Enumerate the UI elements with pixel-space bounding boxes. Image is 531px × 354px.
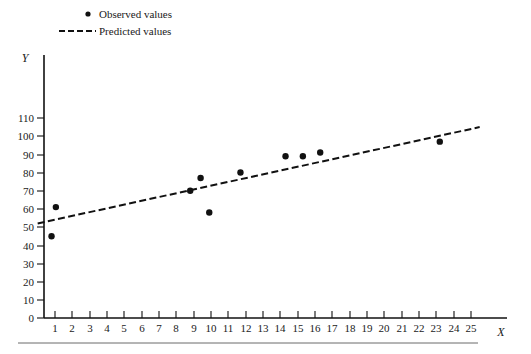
data-point xyxy=(197,175,203,181)
x-tick-label: 15 xyxy=(293,322,305,334)
observed-values-points xyxy=(48,138,443,239)
y-axis-ticks: 0 10 20 30 40 50 60 70 80 90 100 110 xyxy=(18,112,45,324)
data-point xyxy=(206,209,212,215)
data-point xyxy=(282,153,288,159)
x-tick-label: 10 xyxy=(206,322,218,334)
y-tick-label: 80 xyxy=(23,167,35,179)
x-tick-label: 19 xyxy=(362,322,374,334)
data-point xyxy=(300,153,306,159)
y-tick-label: 0 xyxy=(29,312,35,324)
x-tick-label: 12 xyxy=(241,322,252,334)
legend-entry-observed: Observed values xyxy=(85,8,172,20)
x-tick-label: 20 xyxy=(379,322,391,334)
legend: Observed values Predicted values xyxy=(59,8,172,37)
data-point xyxy=(437,138,443,144)
x-tick-label: 2 xyxy=(69,322,75,334)
axes: Y X xyxy=(22,51,507,339)
x-tick-label: 18 xyxy=(345,322,357,334)
scatter-plot-figure: Observed values Predicted values Y X 0 1… xyxy=(0,0,531,354)
legend-label-predicted: Predicted values xyxy=(99,25,171,37)
y-tick-label: 70 xyxy=(23,185,35,197)
y-axis-title: Y xyxy=(22,51,30,65)
x-tick-label: 8 xyxy=(173,322,179,334)
y-tick-label: 90 xyxy=(23,149,35,161)
plot-canvas: Observed values Predicted values Y X 0 1… xyxy=(0,0,531,354)
x-tick-label: 1 xyxy=(52,322,58,334)
x-tick-label: 3 xyxy=(87,322,93,334)
data-point xyxy=(53,204,59,210)
y-tick-label: 50 xyxy=(23,221,35,233)
x-axis-ticks: 1 2 3 4 5 6 7 8 9 10 11 12 13 xyxy=(52,311,477,334)
y-tick-label: 20 xyxy=(23,276,35,288)
data-point xyxy=(317,149,323,155)
y-tick-label: 10 xyxy=(23,294,35,306)
x-tick-label: 6 xyxy=(139,322,145,334)
x-tick-label: 16 xyxy=(310,322,322,334)
dot-marker-icon xyxy=(85,11,90,16)
x-tick-label: 17 xyxy=(327,322,339,334)
x-tick-label: 9 xyxy=(191,322,197,334)
x-tick-label: 21 xyxy=(397,322,408,334)
x-tick-label: 14 xyxy=(275,322,287,334)
x-tick-label: 5 xyxy=(121,322,127,334)
y-tick-label: 110 xyxy=(18,112,35,124)
x-axis-title: X xyxy=(496,325,505,339)
x-tick-label: 24 xyxy=(449,322,461,334)
y-tick-label: 60 xyxy=(23,203,35,215)
x-tick-label: 22 xyxy=(414,322,425,334)
x-tick-label: 13 xyxy=(258,322,270,334)
x-tick-label: 7 xyxy=(156,322,162,334)
data-point xyxy=(48,233,54,239)
x-tick-label: 11 xyxy=(223,322,234,334)
legend-label-observed: Observed values xyxy=(99,8,172,20)
regression-line xyxy=(38,127,480,223)
y-tick-label: 40 xyxy=(23,240,35,252)
y-tick-label: 100 xyxy=(18,130,35,142)
data-point xyxy=(187,188,193,194)
y-tick-label: 30 xyxy=(23,258,35,270)
x-tick-label: 25 xyxy=(466,322,478,334)
predicted-values-line xyxy=(38,127,480,223)
x-tick-label: 23 xyxy=(431,322,443,334)
legend-entry-predicted: Predicted values xyxy=(59,25,171,37)
data-point xyxy=(237,169,243,175)
x-tick-label: 4 xyxy=(104,322,110,334)
